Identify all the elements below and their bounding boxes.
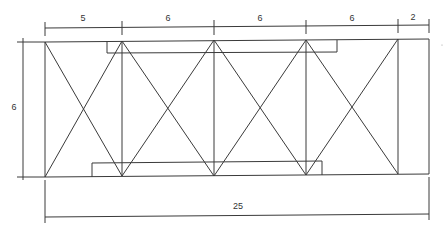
dimension-label-height: 6: [11, 103, 16, 112]
dimension-label-total-length: 25: [233, 202, 243, 211]
truss-svg: [0, 0, 444, 230]
dimension-label-bay-1: 5: [80, 14, 85, 23]
dimension-label-bay-2: 6: [165, 14, 170, 23]
speck-mark: [441, 44, 442, 45]
dimension-label-bay-5: 2: [410, 13, 415, 22]
top-dimension-line: [45, 19, 429, 36]
left-dimension-line: [17, 38, 45, 180]
dimension-label-bay-3: 6: [257, 14, 262, 23]
truss-drawing: 5 6 6 6 2 6 25: [0, 0, 444, 230]
cross-bracing: [45, 39, 398, 177]
outer-frame: [45, 39, 429, 177]
dimension-label-bay-4: 6: [349, 14, 354, 23]
